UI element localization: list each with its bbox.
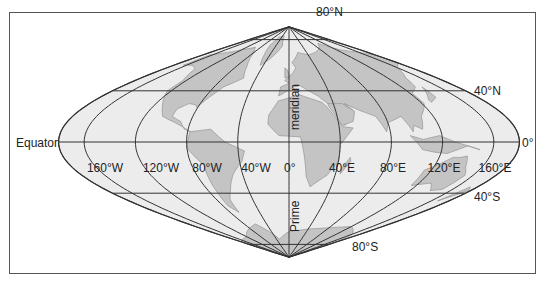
lat-40n-label: 40°N (474, 84, 501, 98)
lon-label: 40°E (329, 161, 355, 175)
lon-label: 40°W (241, 161, 271, 175)
prime-meridian-upper-label: meridian (288, 84, 302, 130)
equator-label: Equator (16, 136, 58, 150)
lon-label: 120°W (143, 161, 180, 175)
lon-label: 80°E (380, 161, 406, 175)
lat-80s-label: 80°S (352, 240, 378, 254)
lon-label: 160°E (479, 161, 512, 175)
equator-right-label: 0° (522, 136, 534, 150)
lon-label: 80°W (192, 161, 222, 175)
lat-80n-label: 80°N (316, 5, 343, 19)
lon-label: 120°E (428, 161, 461, 175)
world-map-sinusoidal: Equator 0° 80°N 40°N 40°S 80°S meridian … (0, 0, 548, 284)
lon-label: 160°W (87, 161, 124, 175)
lat-40s-label: 40°S (474, 190, 500, 204)
prime-meridian-lower-label: Prime (288, 200, 302, 232)
lon-0-label: 0° (284, 161, 296, 175)
